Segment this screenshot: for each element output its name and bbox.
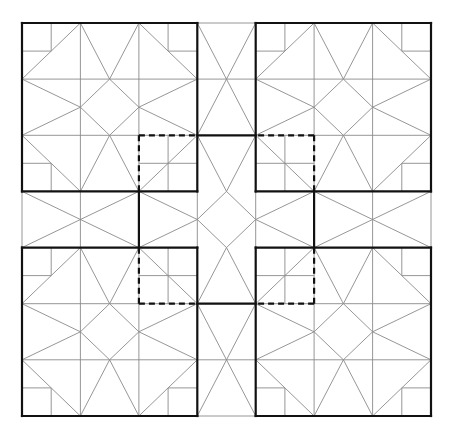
quilt-pattern-diagram: Quilt block tessellation bbox=[0, 0, 453, 432]
background bbox=[0, 0, 453, 432]
